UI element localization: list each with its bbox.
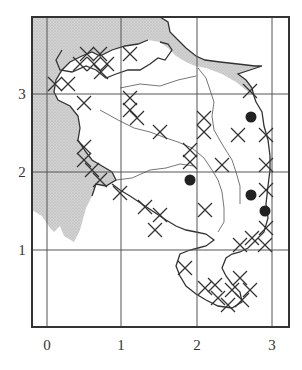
x-axis-labels: 0 1 2 3 — [43, 337, 276, 353]
dot-marker — [185, 175, 196, 186]
dot-marker — [246, 190, 257, 201]
x-tick-3: 3 — [268, 337, 276, 353]
x-tick-0: 0 — [43, 337, 51, 353]
y-tick-3: 3 — [18, 86, 26, 102]
x-tick-2: 2 — [193, 337, 201, 353]
x-tick-1: 1 — [117, 337, 125, 353]
dot-marker — [246, 112, 257, 123]
y-axis-labels: 3 2 1 — [18, 86, 26, 258]
grid-lines — [32, 17, 289, 327]
y-tick-2: 2 — [18, 164, 26, 180]
distribution-map: 0 1 2 3 3 2 1 — [0, 0, 302, 370]
dot-marker — [260, 206, 271, 217]
y-tick-1: 1 — [18, 242, 26, 258]
